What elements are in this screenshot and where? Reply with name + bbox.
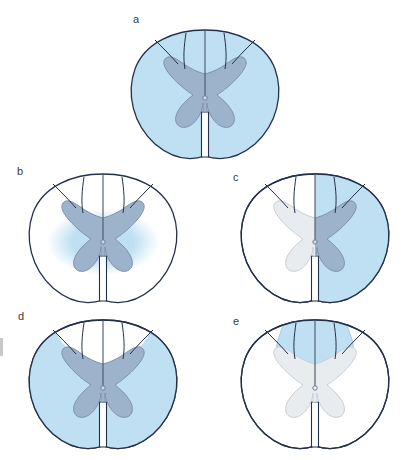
panel-b-diagram bbox=[23, 168, 183, 308]
central-canal-c bbox=[313, 240, 317, 244]
panel-label-e: e bbox=[233, 316, 239, 327]
panel-c-diagram bbox=[235, 168, 395, 308]
anterior-median-fissure-c bbox=[312, 256, 319, 301]
central-canal-a bbox=[203, 96, 207, 100]
panel-label-b: b bbox=[17, 166, 23, 177]
anterior-median-fissure-d bbox=[100, 402, 107, 447]
panel-label-d: d bbox=[18, 311, 24, 322]
panel-e-diagram bbox=[235, 314, 395, 454]
central-canal-e bbox=[313, 386, 317, 390]
panel-d: d bbox=[23, 314, 183, 454]
panel-label-c: c bbox=[233, 172, 239, 183]
panel-d-diagram bbox=[23, 314, 183, 454]
panel-b: b bbox=[23, 168, 183, 308]
central-canal-d bbox=[101, 386, 105, 390]
anterior-median-fissure-a bbox=[202, 112, 209, 157]
edge-scan-artifact bbox=[0, 338, 3, 356]
panel-e: e bbox=[235, 314, 395, 454]
central-canal-b bbox=[101, 240, 105, 244]
spinal-cord-figure: a bbox=[0, 0, 417, 460]
panel-a: a bbox=[125, 24, 285, 164]
panel-label-a: a bbox=[133, 14, 139, 25]
panel-c: c bbox=[235, 168, 395, 308]
anterior-median-fissure-e bbox=[312, 402, 319, 447]
panel-a-diagram bbox=[125, 24, 285, 164]
anterior-median-fissure-b bbox=[100, 256, 107, 301]
